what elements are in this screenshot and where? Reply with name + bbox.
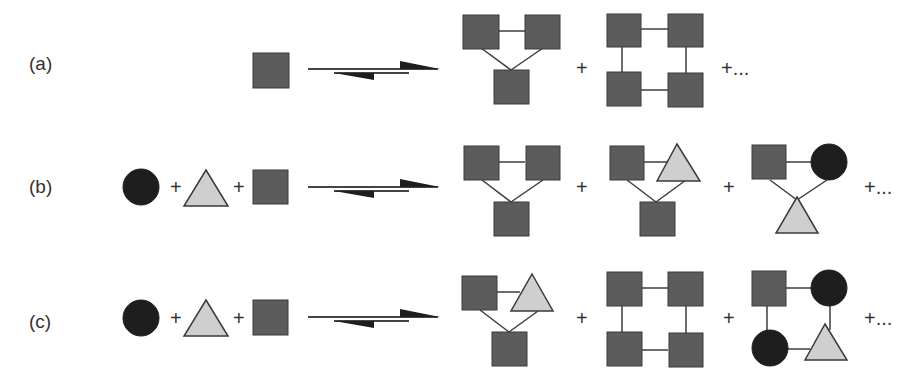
square-icon bbox=[462, 276, 497, 310]
product-triangle-of-squares bbox=[463, 15, 560, 104]
reaction-diagram: (a) + +... bbox=[0, 0, 922, 378]
equilibrium-arrow-icon bbox=[308, 61, 440, 80]
square-icon bbox=[463, 15, 499, 49]
row-label-a: (a) bbox=[29, 53, 52, 74]
square-icon bbox=[494, 202, 529, 236]
square-icon bbox=[668, 272, 703, 306]
product-square-triangle-square bbox=[462, 274, 553, 366]
square-icon bbox=[607, 72, 641, 106]
square-icon bbox=[494, 70, 529, 104]
square-icon bbox=[669, 333, 703, 367]
square-reactant-icon bbox=[253, 170, 288, 204]
product-ring-square-circle-triangle-circle bbox=[752, 270, 847, 366]
square-icon bbox=[464, 146, 499, 180]
square-icon bbox=[668, 14, 703, 47]
square-icon bbox=[752, 145, 786, 179]
row-a: (a) + +... bbox=[29, 14, 749, 107]
row-b: (b) + + + + bbox=[29, 144, 892, 236]
row-label-c: (c) bbox=[29, 311, 51, 332]
triangle-reactant-icon bbox=[184, 300, 228, 336]
product-square-triangle-square bbox=[610, 144, 700, 236]
square-reactant-icon bbox=[253, 53, 289, 88]
square-icon bbox=[492, 332, 527, 366]
square-icon bbox=[752, 271, 786, 306]
plus-sign: + bbox=[576, 57, 588, 79]
plus-ellipsis: +... bbox=[864, 176, 892, 198]
square-icon bbox=[526, 146, 560, 180]
plus-sign: + bbox=[723, 307, 735, 329]
row-label-b: (b) bbox=[29, 176, 52, 197]
square-icon bbox=[607, 332, 642, 366]
triangle-reactant-icon bbox=[184, 170, 228, 206]
product-ring-of-four-squares bbox=[607, 272, 703, 367]
circle-icon bbox=[811, 270, 847, 306]
square-icon bbox=[640, 202, 675, 236]
circle-reactant-icon bbox=[123, 300, 159, 336]
triangle-icon bbox=[805, 324, 847, 360]
product-square-circle-triangle bbox=[752, 144, 847, 233]
product-triangle-of-squares bbox=[464, 146, 560, 236]
row-c: (c) + + + bbox=[29, 270, 892, 367]
square-icon bbox=[668, 73, 703, 107]
square-icon bbox=[607, 14, 641, 47]
plus-sign: + bbox=[170, 307, 182, 329]
plus-ellipsis: +... bbox=[721, 57, 749, 79]
square-reactant-icon bbox=[253, 300, 288, 335]
plus-sign: + bbox=[576, 176, 588, 198]
equilibrium-arrow-icon bbox=[308, 309, 440, 328]
plus-sign: + bbox=[233, 176, 245, 198]
circle-icon bbox=[811, 144, 847, 180]
plus-ellipsis: +... bbox=[864, 307, 892, 329]
plus-sign: + bbox=[233, 307, 245, 329]
plus-sign: + bbox=[170, 176, 182, 198]
plus-sign: + bbox=[576, 307, 588, 329]
equilibrium-arrow-icon bbox=[308, 179, 440, 198]
square-icon bbox=[525, 15, 560, 49]
square-icon bbox=[610, 146, 644, 180]
plus-sign: + bbox=[723, 176, 735, 198]
circle-icon bbox=[752, 330, 788, 366]
square-icon bbox=[607, 272, 642, 306]
circle-reactant-icon bbox=[123, 169, 159, 205]
triangle-icon bbox=[776, 197, 818, 233]
product-ring-of-four-squares bbox=[607, 14, 703, 107]
